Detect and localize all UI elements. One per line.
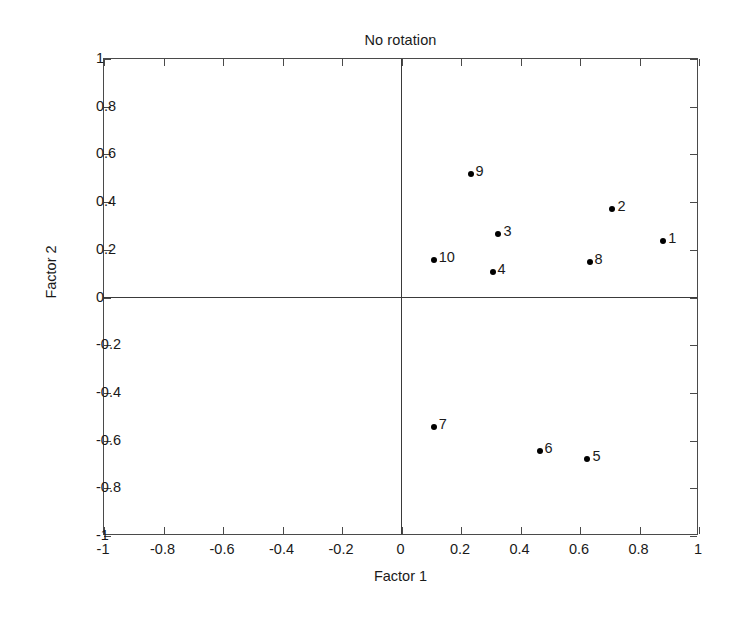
data-point-marker — [660, 238, 666, 244]
y-tick-label: 0.2 — [96, 241, 116, 257]
x-tick-label: 0.6 — [569, 541, 589, 557]
y-tick-label: -1 — [96, 527, 109, 543]
y-tick-label: -0.2 — [96, 336, 121, 352]
y-tick-label: -0.8 — [96, 479, 121, 495]
x-tick-label: 0.2 — [450, 541, 470, 557]
y-tick-mark — [690, 345, 697, 346]
data-point-label: 2 — [617, 198, 625, 214]
y-axis-label: Factor 2 — [43, 202, 59, 342]
data-point-label: 9 — [476, 163, 484, 179]
y-tick-label: 0.8 — [96, 98, 116, 114]
x-tick-mark — [521, 527, 522, 534]
y-tick-label: 0.6 — [96, 145, 116, 161]
x-tick-mark — [580, 59, 581, 66]
y-zero-axis-line — [401, 59, 402, 534]
x-tick-label: 0 — [396, 541, 404, 557]
y-tick-mark — [690, 202, 697, 203]
x-tick-label: -0.8 — [150, 541, 175, 557]
y-tick-mark — [690, 298, 697, 299]
y-tick-mark — [690, 250, 697, 251]
x-tick-mark — [283, 59, 284, 66]
x-tick-mark — [699, 59, 700, 66]
y-tick-label: -0.6 — [96, 432, 121, 448]
data-point-label: 7 — [439, 416, 447, 432]
x-tick-mark — [342, 527, 343, 534]
data-point-label: 8 — [595, 251, 603, 267]
x-tick-label: 1 — [694, 541, 702, 557]
plot-area: 12345678910 — [103, 58, 698, 535]
x-tick-mark — [699, 527, 700, 534]
x-tick-mark — [521, 59, 522, 66]
x-tick-mark — [104, 59, 105, 66]
y-tick-mark — [690, 59, 697, 60]
chart-title: No rotation — [103, 32, 698, 48]
x-tick-mark — [223, 527, 224, 534]
y-tick-mark — [690, 488, 697, 489]
x-tick-mark — [283, 527, 284, 534]
data-point-marker — [431, 257, 437, 263]
data-point-marker — [468, 171, 474, 177]
x-tick-mark — [223, 59, 224, 66]
data-point-label: 4 — [498, 261, 506, 277]
y-tick-label: 1 — [96, 50, 104, 66]
x-tick-label: -0.4 — [269, 541, 294, 557]
x-tick-mark — [342, 59, 343, 66]
x-tick-mark — [640, 59, 641, 66]
y-tick-mark — [690, 154, 697, 155]
x-tick-mark — [402, 59, 403, 66]
data-point-marker — [495, 231, 501, 237]
x-tick-mark — [461, 527, 462, 534]
y-tick-label: 0 — [96, 289, 104, 305]
x-tick-label: -0.2 — [329, 541, 354, 557]
y-tick-mark — [690, 393, 697, 394]
x-tick-mark — [164, 527, 165, 534]
x-tick-label: 0.4 — [509, 541, 529, 557]
y-tick-mark — [690, 536, 697, 537]
y-tick-mark — [104, 298, 111, 299]
x-tick-mark — [580, 527, 581, 534]
y-tick-mark — [690, 441, 697, 442]
data-point-label: 10 — [439, 249, 455, 265]
y-tick-mark — [690, 107, 697, 108]
data-point-marker — [584, 456, 590, 462]
x-tick-mark — [461, 59, 462, 66]
x-tick-mark — [640, 527, 641, 534]
data-point-label: 6 — [545, 440, 553, 456]
data-point-label: 5 — [592, 448, 600, 464]
x-tick-mark — [164, 59, 165, 66]
y-tick-label: 0.4 — [96, 193, 116, 209]
x-tick-label: -0.6 — [210, 541, 235, 557]
data-point-marker — [537, 448, 543, 454]
data-point-label: 3 — [503, 223, 511, 239]
data-point-marker — [431, 424, 437, 430]
y-tick-label: -0.4 — [96, 384, 121, 400]
x-tick-label: -1 — [97, 541, 110, 557]
data-point-marker — [609, 206, 615, 212]
data-point-marker — [490, 269, 496, 275]
data-point-label: 1 — [668, 230, 676, 246]
x-axis-label: Factor 1 — [103, 568, 698, 584]
y-tick-mark — [104, 59, 111, 60]
data-point-marker — [587, 259, 593, 265]
x-tick-mark — [402, 527, 403, 534]
x-tick-label: 0.8 — [628, 541, 648, 557]
factor-loading-scatter-figure: No rotation 12345678910 -1-0.8-0.6-0.4-0… — [0, 0, 737, 619]
